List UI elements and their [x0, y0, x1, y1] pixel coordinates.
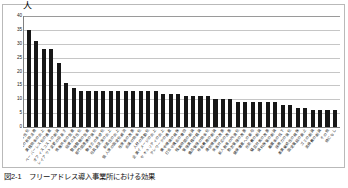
- bar-column: [107, 16, 114, 127]
- bar-column: [70, 16, 77, 127]
- plot-inner: [24, 16, 340, 127]
- bar: [228, 99, 232, 127]
- bar: [296, 108, 300, 127]
- y-tick-label: 35: [17, 28, 22, 33]
- bar: [109, 91, 113, 127]
- chart-screenshot: 人 0510152025303540 コミュニケーションの活性化スペースの有効活…: [0, 0, 348, 188]
- bar: [243, 102, 247, 127]
- y-tick-label: 30: [17, 42, 22, 47]
- bar: [184, 96, 188, 127]
- bar: [318, 110, 322, 127]
- chart-figure: 人 0510152025303540 コミュニケーションの活性化スペースの有効活…: [2, 4, 345, 168]
- bar: [154, 91, 158, 127]
- y-tick-label: 25: [17, 56, 22, 61]
- bar-column: [242, 16, 249, 127]
- y-tick-label: 15: [17, 83, 22, 88]
- bar: [139, 91, 143, 127]
- bar: [325, 110, 329, 127]
- bar: [86, 91, 90, 127]
- bar: [213, 99, 217, 127]
- bar-column: [212, 16, 219, 127]
- bar-column: [137, 16, 144, 127]
- x-axis-tick-labels: コミュニケーションの活性化スペースの有効活用業務効率の向上ペーパーレス化の推進オ…: [23, 129, 340, 167]
- bar: [169, 94, 173, 127]
- bar-series: [24, 16, 340, 127]
- bar: [281, 105, 285, 127]
- bar-column: [257, 16, 264, 127]
- bar-column: [182, 16, 189, 127]
- bar: [124, 91, 128, 127]
- bar-column: [204, 16, 211, 127]
- bar-column: [197, 16, 204, 127]
- bar: [79, 91, 83, 127]
- bar-column: [152, 16, 159, 127]
- bar-column: [264, 16, 271, 127]
- y-tick-label: 0: [19, 125, 22, 130]
- bar: [266, 102, 270, 127]
- bar: [49, 49, 53, 127]
- bar: [131, 91, 135, 127]
- bar-column: [174, 16, 181, 127]
- bar-column: [25, 16, 32, 127]
- bar-column: [62, 16, 69, 127]
- bar-column: [309, 16, 316, 127]
- bar-column: [100, 16, 107, 127]
- bar-column: [279, 16, 286, 127]
- bar: [34, 41, 38, 127]
- y-tick-label: 40: [17, 14, 22, 19]
- bar-column: [159, 16, 166, 127]
- bar-column: [286, 16, 293, 127]
- bar: [273, 102, 277, 127]
- bar: [27, 30, 31, 127]
- bar-column: [40, 16, 47, 127]
- bar-column: [331, 16, 338, 127]
- bar: [191, 96, 195, 127]
- bar: [333, 110, 337, 127]
- bar: [42, 49, 46, 127]
- bar-column: [145, 16, 152, 127]
- bar: [64, 83, 68, 127]
- bar: [236, 102, 240, 127]
- bar-column: [234, 16, 241, 127]
- figure-caption: 図2-1 フリーアドレス導入事業所における効果: [4, 172, 344, 181]
- bar: [72, 88, 76, 127]
- bar-column: [92, 16, 99, 127]
- bar-column: [227, 16, 234, 127]
- bar: [146, 91, 150, 127]
- bar-column: [115, 16, 122, 127]
- bar-column: [167, 16, 174, 127]
- plot-area: 0510152025303540: [23, 16, 340, 128]
- bar: [57, 63, 61, 127]
- bar-column: [271, 16, 278, 127]
- bar-column: [249, 16, 256, 127]
- bar: [176, 94, 180, 127]
- bar: [206, 96, 210, 127]
- bar-column: [47, 16, 54, 127]
- bar-column: [130, 16, 137, 127]
- bar: [288, 105, 292, 127]
- y-tick-label: 20: [17, 70, 22, 75]
- bar-column: [316, 16, 323, 127]
- bar-column: [32, 16, 39, 127]
- bar: [94, 91, 98, 127]
- bar: [101, 91, 105, 127]
- bar-column: [294, 16, 301, 127]
- bar: [251, 102, 255, 127]
- bar: [221, 99, 225, 127]
- bar-column: [324, 16, 331, 127]
- bar: [116, 91, 120, 127]
- y-axis-unit-label: 人: [23, 2, 32, 11]
- x-label-column: 特になし: [332, 129, 340, 167]
- bar: [303, 108, 307, 127]
- bar-column: [219, 16, 226, 127]
- bar-column: [122, 16, 129, 127]
- y-tick-label: 10: [17, 97, 22, 102]
- bar-column: [301, 16, 308, 127]
- bar: [161, 94, 165, 127]
- bar: [311, 110, 315, 127]
- y-tick-label: 5: [19, 111, 22, 116]
- bar-column: [77, 16, 84, 127]
- bar: [258, 102, 262, 127]
- bar-column: [189, 16, 196, 127]
- bar: [198, 96, 202, 127]
